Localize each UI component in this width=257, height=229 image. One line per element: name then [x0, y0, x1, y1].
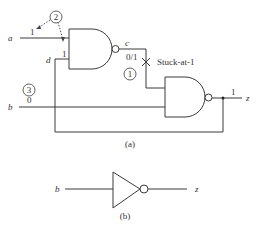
signal-c-label: c — [125, 38, 129, 48]
value-c: 0/1 — [126, 52, 138, 62]
wire-d — [55, 59, 69, 132]
value-z: 1 — [231, 87, 236, 97]
fault-label: Stuck-at-1 — [157, 57, 195, 67]
value-b: 0 — [27, 95, 32, 105]
signal-d-label: d — [46, 55, 51, 65]
junction-dot — [222, 97, 225, 100]
caption-b: (b) — [120, 211, 131, 221]
inverter-bubble — [140, 185, 148, 193]
signal-b-inverter-label: b — [55, 184, 60, 194]
arrowhead-a-icon — [36, 25, 41, 29]
arrowhead-d-icon — [61, 37, 65, 42]
nand-gate-2-bubble — [205, 94, 212, 101]
step-marker-2-label: 2 — [54, 12, 59, 22]
signal-z-label: z — [245, 93, 250, 103]
signal-a-label: a — [8, 33, 13, 43]
step-marker-1-label: 1 — [128, 69, 133, 79]
value-a: 1 — [30, 27, 35, 37]
nand-gate-1 — [69, 29, 112, 69]
nand-gate-2 — [165, 77, 205, 117]
step-marker-3-label: 3 — [27, 85, 32, 95]
signal-z-inverter-label: z — [194, 184, 199, 194]
value-d: 1 — [62, 49, 67, 59]
inverter-gate — [113, 172, 140, 208]
signal-b-label: b — [8, 102, 13, 112]
nand-gate-1-bubble — [112, 46, 119, 53]
caption-a: (a) — [125, 139, 135, 149]
circuit-diagram: 2 1 3 a 1 d 1 b 0 c 0/1 Stuck-at-1 1 z (… — [0, 0, 257, 229]
